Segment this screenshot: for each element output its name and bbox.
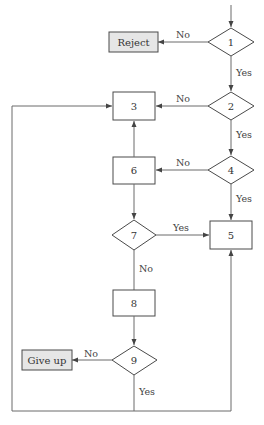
decision-9: 9 [112, 346, 157, 375]
process-3: 3 [113, 92, 155, 120]
svg-text:Give up: Give up [28, 355, 67, 366]
edge-label-no: No [139, 263, 153, 274]
edge-label-yes: Yes [235, 67, 252, 78]
svg-text:7: 7 [131, 230, 137, 241]
svg-text:6: 6 [131, 165, 137, 176]
edge-label-no: No [84, 348, 98, 359]
svg-text:9: 9 [131, 355, 137, 366]
decision-2: 2 [208, 92, 254, 120]
decision-7: 7 [112, 220, 156, 250]
terminal-give-up: Give up [22, 350, 72, 370]
process-8: 8 [113, 290, 155, 316]
edge-label-yes: Yes [172, 222, 189, 233]
svg-text:2: 2 [228, 101, 234, 112]
svg-text:Reject: Reject [117, 37, 149, 48]
flowchart: 1 No Reject Yes 2 No 3 Yes 4 No 6 Yes [0, 0, 264, 425]
edge-label-no: No [176, 29, 190, 40]
svg-text:8: 8 [131, 298, 137, 309]
edge-label-yes: Yes [138, 386, 155, 397]
svg-text:1: 1 [228, 37, 234, 48]
svg-text:4: 4 [228, 165, 234, 176]
terminal-reject: Reject [109, 32, 158, 52]
process-6: 6 [113, 157, 155, 184]
edge-label-yes: Yes [235, 193, 252, 204]
edge-label-yes: Yes [235, 129, 252, 140]
process-5: 5 [210, 221, 252, 249]
decision-1: 1 [208, 28, 254, 56]
svg-text:3: 3 [131, 101, 137, 112]
edge-label-no: No [176, 93, 190, 104]
svg-text:5: 5 [228, 230, 234, 241]
edge-label-no: No [176, 157, 190, 168]
decision-4: 4 [208, 156, 254, 184]
